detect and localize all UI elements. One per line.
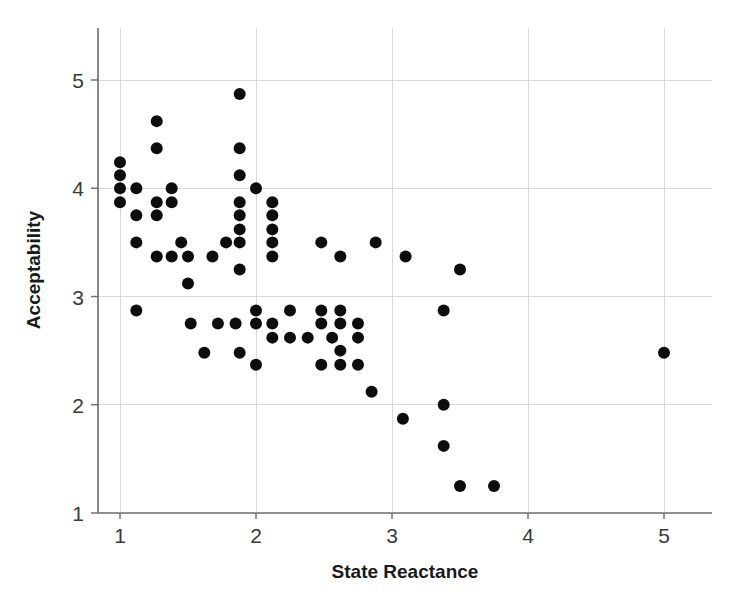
- x-tick-label: 3: [386, 524, 398, 547]
- data-point: [266, 236, 278, 248]
- x-axis-ticks: [120, 513, 664, 519]
- data-point: [438, 305, 450, 317]
- x-tick-label: 5: [658, 524, 670, 547]
- y-axis-title: Acceptability: [23, 210, 44, 329]
- data-point: [151, 196, 163, 208]
- data-point: [266, 318, 278, 330]
- data-point: [151, 209, 163, 221]
- data-point: [220, 236, 232, 248]
- data-point: [185, 318, 197, 330]
- data-point: [198, 347, 210, 359]
- data-point: [266, 209, 278, 221]
- data-point: [658, 347, 670, 359]
- data-point: [234, 209, 246, 221]
- data-point: [175, 236, 187, 248]
- y-tick-label: 1: [72, 502, 84, 525]
- data-point: [438, 440, 450, 452]
- data-point: [114, 196, 126, 208]
- data-point: [352, 318, 364, 330]
- x-tick-label: 2: [250, 524, 262, 547]
- data-point: [130, 305, 142, 317]
- data-point: [334, 250, 346, 262]
- y-gridlines: [98, 80, 712, 405]
- data-point: [130, 182, 142, 194]
- data-point: [234, 196, 246, 208]
- data-point: [151, 250, 163, 262]
- data-point: [250, 305, 262, 317]
- data-point: [454, 480, 466, 492]
- x-axis-title: State Reactance: [332, 561, 479, 582]
- data-point: [234, 236, 246, 248]
- scatter-plot-canvas: 12345 12345 State Reactance Acceptabilit…: [0, 0, 732, 598]
- data-point: [370, 236, 382, 248]
- data-point: [454, 263, 466, 275]
- data-point: [400, 250, 412, 262]
- data-point: [266, 223, 278, 235]
- y-tick-label: 2: [72, 394, 84, 417]
- data-point: [366, 386, 378, 398]
- data-point: [114, 169, 126, 181]
- data-point: [326, 332, 338, 344]
- y-tick-label: 5: [72, 69, 84, 92]
- data-point: [334, 305, 346, 317]
- data-point: [130, 209, 142, 221]
- data-point: [234, 88, 246, 100]
- data-point: [166, 182, 178, 194]
- data-point: [315, 305, 327, 317]
- data-point: [114, 156, 126, 168]
- data-point: [234, 347, 246, 359]
- data-point: [315, 359, 327, 371]
- data-point: [212, 318, 224, 330]
- data-point: [284, 305, 296, 317]
- data-point: [130, 236, 142, 248]
- data-point: [230, 318, 242, 330]
- y-axis-ticks: [91, 80, 98, 513]
- x-tick-label: 4: [522, 524, 534, 547]
- data-point: [114, 182, 126, 194]
- data-point: [151, 115, 163, 127]
- data-point: [266, 250, 278, 262]
- data-point: [315, 236, 327, 248]
- data-point: [488, 480, 500, 492]
- data-point: [250, 318, 262, 330]
- data-point: [315, 318, 327, 330]
- data-point: [284, 332, 296, 344]
- data-point: [234, 263, 246, 275]
- data-point: [182, 278, 194, 290]
- data-point: [182, 250, 194, 262]
- y-tick-label: 3: [72, 286, 84, 309]
- y-tick-labels: 12345: [72, 69, 84, 525]
- data-point: [234, 142, 246, 154]
- x-gridlines: [120, 28, 664, 513]
- data-point: [250, 182, 262, 194]
- x-tick-labels: 12345: [114, 524, 670, 547]
- data-point: [151, 142, 163, 154]
- data-point: [302, 332, 314, 344]
- data-point: [234, 169, 246, 181]
- data-point: [352, 359, 364, 371]
- x-tick-label: 1: [114, 524, 126, 547]
- data-point: [234, 223, 246, 235]
- data-point: [266, 332, 278, 344]
- data-point: [166, 196, 178, 208]
- data-point: [266, 196, 278, 208]
- data-point: [352, 332, 364, 344]
- data-point: [166, 250, 178, 262]
- y-tick-label: 4: [72, 177, 84, 200]
- data-point: [334, 359, 346, 371]
- data-point: [397, 413, 409, 425]
- data-point: [250, 359, 262, 371]
- data-point: [438, 399, 450, 411]
- data-point: [334, 345, 346, 357]
- data-point: [206, 250, 218, 262]
- data-point: [334, 318, 346, 330]
- scatter-plot-figure: 12345 12345 State Reactance Acceptabilit…: [0, 0, 732, 598]
